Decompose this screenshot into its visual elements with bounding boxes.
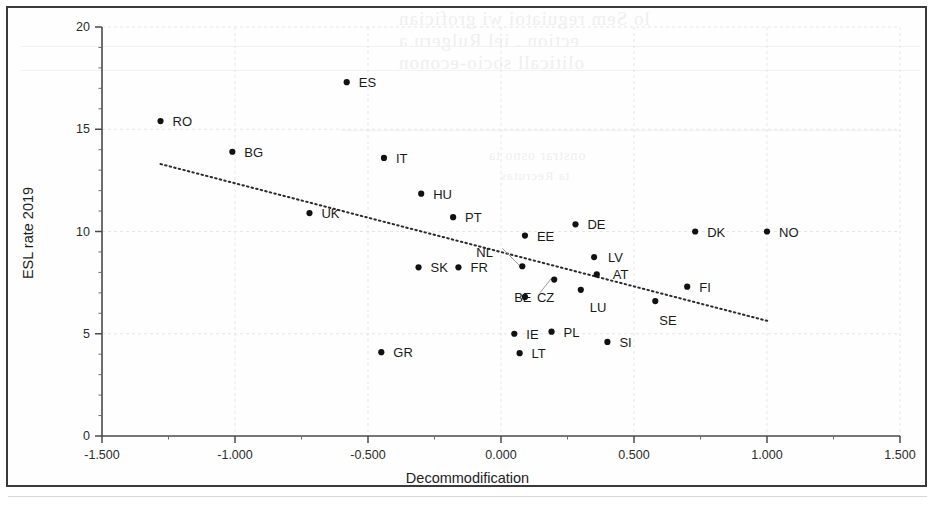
x-tick-label: -1.000 [217,448,252,462]
data-point-marker [572,221,578,227]
point-label: LU [590,299,607,314]
x-axis-title: Decommodification [0,470,935,486]
point-label: IT [396,150,408,165]
point-label: HU [433,186,452,201]
data-point-marker [450,214,456,220]
data-point-marker [692,228,698,234]
scatter-plot: -1.500-1.000-0.5000.0000.5001.0001.50005… [0,0,935,505]
data-point-marker [652,298,658,304]
point-label: SE [659,313,676,328]
point-label: DE [587,217,605,232]
point-label: SI [619,334,631,349]
data-point-marker [522,232,528,238]
plot-canvas [0,0,935,505]
data-point-marker [378,349,384,355]
data-point-marker [418,191,424,197]
data-point-marker [591,254,597,260]
point-label: IE [526,326,538,341]
data-point-marker [764,228,770,234]
point-label: BE [514,289,531,304]
data-point-marker [381,155,387,161]
point-label: NL [476,245,493,260]
y-tick-label: 20 [44,20,90,34]
point-label: DK [707,224,725,239]
point-label: CZ [537,289,554,304]
y-tick-label: 15 [44,122,90,136]
point-label: NO [779,224,799,239]
y-axis-title: ESL rate 2019 [20,143,36,323]
point-label: RO [173,114,193,129]
point-label: BG [244,144,263,159]
x-tick-label: 0.000 [485,448,516,462]
data-point-marker [344,79,350,85]
data-point-marker [519,263,525,269]
point-label: LV [608,250,623,265]
data-point-marker [511,331,517,337]
point-label: EE [537,228,554,243]
x-tick-label: -1.500 [84,448,119,462]
data-point-marker [684,284,690,290]
point-label: UK [321,206,339,221]
trendline [161,164,770,321]
point-label: PT [465,210,482,225]
data-point-marker [578,287,584,293]
y-tick-label: 10 [44,225,90,239]
point-label: GR [393,345,413,360]
data-point-marker [551,276,557,282]
data-point-marker [455,264,461,270]
data-point-marker [517,350,523,356]
data-point-marker [229,149,235,155]
x-tick-label: 0.500 [618,448,649,462]
data-point-marker [306,210,312,216]
point-label: LT [532,346,546,361]
data-point-marker [548,329,554,335]
y-tick-label: 0 [44,429,90,443]
point-label: FR [470,260,487,275]
point-label: PL [564,324,580,339]
data-point-marker [594,271,600,277]
point-label: AT [613,267,629,282]
data-point-marker [604,339,610,345]
point-label: FI [699,279,711,294]
point-label: ES [359,75,376,90]
data-point-marker [157,118,163,124]
data-point-marker [415,264,421,270]
x-tick-label: 1.000 [751,448,782,462]
x-tick-label: 1.500 [884,448,915,462]
y-tick-label: 5 [44,327,90,341]
x-tick-label: -0.500 [350,448,385,462]
point-label: SK [431,260,448,275]
